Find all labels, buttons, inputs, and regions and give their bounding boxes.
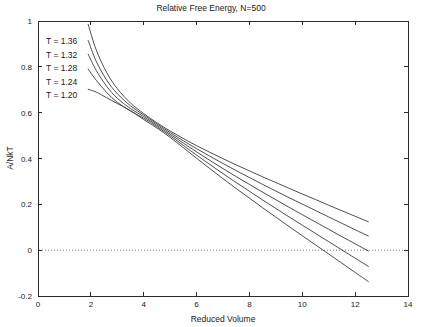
- curve-1.20: [88, 89, 368, 281]
- data-curves: [88, 24, 368, 281]
- y-axis-label: A/NkT: [5, 146, 15, 170]
- legend-entry: T = 1.28: [46, 63, 78, 73]
- legend-entry: T = 1.36: [46, 36, 78, 46]
- x-axis-ticks: 02468101214: [36, 21, 413, 309]
- y-tick-label: 0.8: [21, 63, 33, 72]
- x-tick-label: 14: [404, 300, 413, 309]
- y-axis-ticks: -0.200.20.40.60.81: [18, 17, 408, 301]
- chart-figure: Relative Free Energy, N=500 02468101214 …: [0, 0, 423, 327]
- x-tick-label: 12: [351, 300, 360, 309]
- x-tick-label: 4: [141, 300, 146, 309]
- y-tick-label: -0.2: [18, 292, 32, 301]
- legend: T = 1.36T = 1.32T = 1.28T = 1.24T = 1.20: [46, 36, 78, 100]
- x-tick-label: 10: [298, 300, 307, 309]
- relative-free-energy-plot: Relative Free Energy, N=500 02468101214 …: [0, 0, 423, 327]
- y-tick-label: 0: [28, 246, 33, 255]
- legend-entry: T = 1.20: [46, 90, 78, 100]
- curve-1.32: [88, 40, 368, 235]
- chart-title: Relative Free Energy, N=500: [156, 3, 265, 13]
- y-tick-label: 1: [28, 17, 33, 26]
- x-tick-label: 8: [247, 300, 252, 309]
- y-tick-label: 0.6: [21, 109, 33, 118]
- x-axis-label: Reduced Volume: [191, 314, 256, 324]
- chart-title-group: Relative Free Energy, N=500: [156, 3, 265, 13]
- x-tick-label: 0: [36, 300, 41, 309]
- x-tick-label: 2: [89, 300, 94, 309]
- legend-entry: T = 1.24: [46, 77, 78, 87]
- curve-1.36: [88, 24, 368, 221]
- curve-1.28: [88, 54, 368, 251]
- curve-1.24: [88, 69, 368, 266]
- x-tick-label: 6: [194, 300, 199, 309]
- y-tick-label: 0.4: [21, 155, 33, 164]
- legend-entry: T = 1.32: [46, 50, 78, 60]
- y-tick-label: 0.2: [21, 200, 33, 209]
